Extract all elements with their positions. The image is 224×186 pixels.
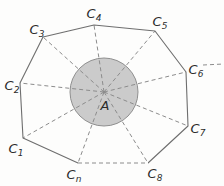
figure-canvas — [0, 0, 224, 186]
continuation-dashes-icon — [203, 64, 224, 65]
polygon-figure: C1C2C3C4C5C6C7C8Cn A — [0, 0, 224, 186]
